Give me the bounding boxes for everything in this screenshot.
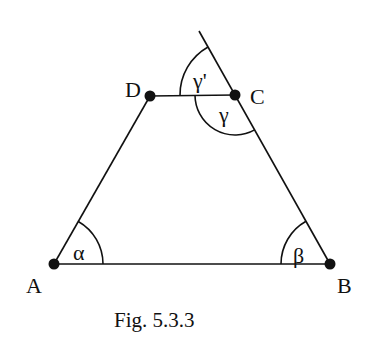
angle-label-alpha: α <box>73 240 85 265</box>
trapezoid-diagram: A B C D α β γ γ' Fig. 5.3.3 <box>0 0 370 343</box>
figure-canvas: A B C D α β γ γ' Fig. 5.3.3 <box>0 0 370 343</box>
angle-label-gamma-prime: γ' <box>192 68 207 93</box>
figure-caption: Fig. 5.3.3 <box>114 308 195 332</box>
label-b: B <box>337 273 352 298</box>
vertex-dot-d <box>145 91 156 102</box>
side-bc-extended <box>199 31 330 264</box>
angle-label-beta: β <box>293 243 304 268</box>
side-dc <box>150 95 235 96</box>
angle-label-gamma: γ <box>218 102 229 127</box>
vertex-dot-a <box>49 259 60 270</box>
vertex-dot-b <box>325 259 336 270</box>
label-a: A <box>26 273 42 298</box>
label-c: C <box>250 84 265 109</box>
side-da <box>54 96 150 264</box>
label-d: D <box>125 77 141 102</box>
vertex-dot-c <box>230 90 241 101</box>
